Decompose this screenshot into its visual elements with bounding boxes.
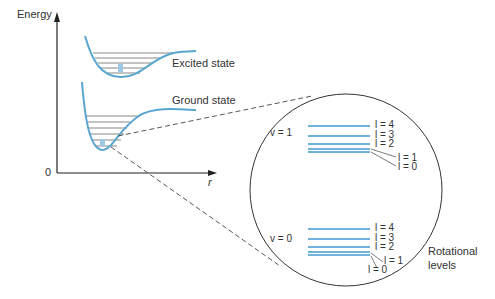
rotational-label-line2: levels <box>428 259 456 271</box>
excited-state-label: Excited state <box>172 57 235 69</box>
v0-l2-label: l = 2 <box>375 241 394 252</box>
rotational-label-line1: Rotational <box>428 245 478 257</box>
v0-l0-label: l = 0 <box>368 264 387 275</box>
v1-l2-label: l = 2 <box>375 138 394 149</box>
v1-label: v = 1 <box>270 127 292 138</box>
v1-l0-label: l = 0 <box>398 161 417 172</box>
origin-label: 0 <box>45 166 51 178</box>
y-axis-label: Energy <box>17 8 52 20</box>
v0-label: v = 0 <box>270 233 292 244</box>
x-axis-label: r <box>208 176 212 188</box>
ground-state-label: Ground state <box>172 94 236 106</box>
